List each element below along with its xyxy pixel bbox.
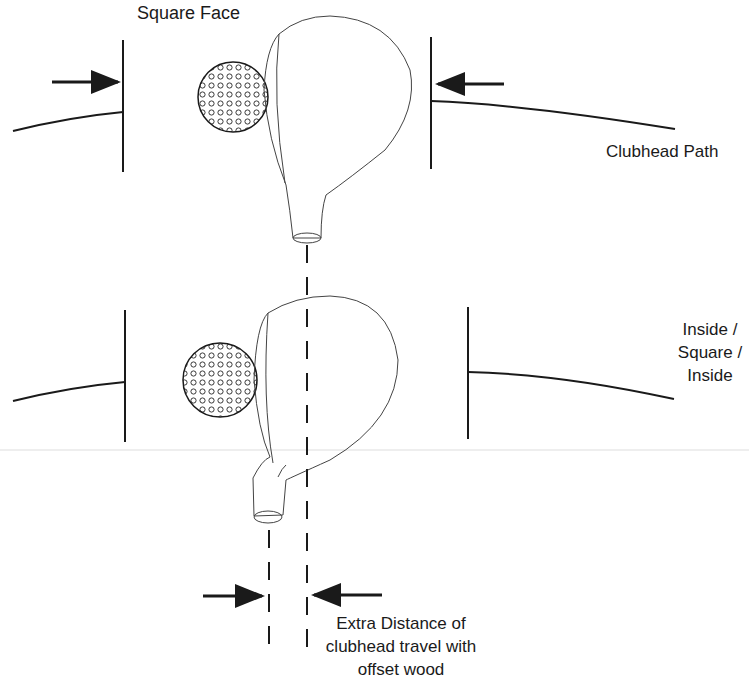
inside-path-right-curve bbox=[468, 372, 674, 399]
diagram-title: Square Face bbox=[137, 3, 240, 23]
golf-ball-icon bbox=[198, 62, 268, 132]
clubhead-path-label: Clubhead Path bbox=[606, 142, 718, 162]
inside-square-inside-label: Inside / Square / Inside bbox=[665, 318, 749, 387]
clubhead-offset-icon bbox=[253, 296, 398, 523]
top-panel-square-club bbox=[13, 16, 675, 243]
label-line: Inside bbox=[665, 364, 749, 387]
label-line: Inside / bbox=[665, 318, 749, 341]
extra-distance-annotation: Extra Distance of clubhead travel with o… bbox=[311, 612, 491, 681]
golf-ball-bottom-icon bbox=[183, 343, 257, 417]
annotation-line: clubhead travel with bbox=[311, 635, 491, 658]
offset-wood-diagram bbox=[0, 0, 749, 695]
inside-path-left-curve bbox=[13, 382, 125, 401]
bottom-panel-offset-club bbox=[13, 296, 674, 523]
annotation-line: Extra Distance of bbox=[311, 612, 491, 635]
clubhead-top-icon bbox=[264, 16, 412, 243]
label-line: Square / bbox=[665, 341, 749, 364]
annotation-line: offset wood bbox=[311, 658, 491, 681]
clubhead-path-left-curve bbox=[13, 112, 123, 131]
clubhead-path-right-curve bbox=[431, 101, 675, 129]
